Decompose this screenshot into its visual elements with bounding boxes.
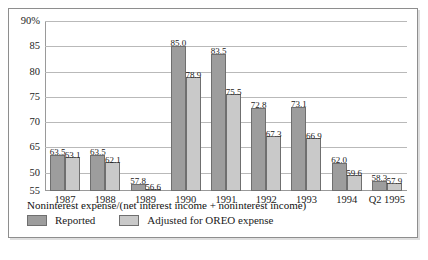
bar-value-label: 56.6 [145, 183, 161, 192]
chart-caption: Noninterest expense/(net interest income… [27, 199, 306, 212]
legend-label-adjusted: Adjusted for OREO expense [147, 215, 273, 226]
bar-value-label: 57.8 [130, 177, 146, 186]
bar-adjusted: 57.9 [387, 183, 402, 191]
bar-value-label: 78.9 [185, 71, 201, 80]
bar-value-label: 62.1 [105, 156, 121, 165]
bar-adjusted: 56.6 [146, 189, 161, 191]
bar-reported: 63.5 [50, 155, 65, 191]
y-tick-label: 90% [21, 16, 40, 27]
bar-group: 63.563.11987 [50, 21, 80, 191]
bar-value-label: 63.1 [65, 151, 81, 160]
bar-group: 57.856.61989 [131, 21, 161, 191]
bar-group: 85.078.91990 [171, 21, 201, 191]
bar-adjusted: 62.1 [105, 162, 120, 191]
bar-group: 72.867.31992 [251, 21, 281, 191]
legend-swatch-adjusted [119, 215, 139, 226]
bar-group: 83.575.51991 [211, 21, 241, 191]
bar-value-label: 63.5 [90, 148, 106, 157]
y-tick-label: 85 [30, 41, 41, 52]
bar-reported: 62.0 [332, 163, 347, 191]
bar-value-label: 66.9 [306, 132, 322, 141]
y-tick-label: 70 [30, 117, 41, 128]
bar-reported: 57.8 [131, 184, 146, 191]
bar-value-label: 72.8 [251, 101, 267, 110]
bar-value-label: 59.6 [346, 169, 362, 178]
bar-reported: 73.1 [291, 107, 306, 191]
legend-swatch-reported [27, 215, 47, 226]
bar-group: 63.562.11988 [90, 21, 120, 191]
bar-adjusted: 78.9 [186, 77, 201, 191]
y-tick-label: 50 [30, 168, 41, 179]
bar-value-label: 75.5 [226, 88, 242, 97]
bar-adjusted: 75.5 [226, 94, 241, 191]
bar-group: 58.357.9Q2 1995 [372, 21, 402, 191]
bar-group: 62.059.61994 [332, 21, 362, 191]
bar-value-label: 57.9 [387, 177, 403, 186]
legend-entry-adjusted: Adjusted for OREO expense [119, 215, 273, 226]
y-tick-label: 65 [30, 142, 41, 153]
chart-figure: 90%85807570655055 63.563.1198763.562.119… [8, 8, 418, 238]
bar-value-label: 85.0 [170, 39, 186, 48]
legend-entry-reported: Reported [27, 215, 95, 226]
bar-adjusted: 66.9 [306, 138, 321, 191]
x-tick-label: Q2 1995 [369, 195, 405, 206]
y-tick-label: 80 [30, 66, 41, 77]
bar-reported: 85.0 [171, 46, 186, 191]
bar-value-label: 63.5 [50, 148, 66, 157]
x-tick-label: 1994 [336, 195, 357, 206]
bar-value-label: 62.0 [331, 156, 347, 165]
legend-label-reported: Reported [55, 215, 95, 226]
y-tick-label: 75 [30, 92, 41, 103]
chart-legend: Reported Adjusted for OREO expense [27, 215, 274, 226]
plot-area: 90%85807570655055 63.563.1198763.562.119… [45, 21, 407, 191]
bar-value-label: 58.3 [372, 174, 388, 183]
bar-value-label: 83.5 [211, 47, 227, 56]
bar-adjusted: 63.1 [65, 157, 80, 191]
bar-value-label: 73.1 [291, 100, 307, 109]
bar-adjusted: 59.6 [347, 175, 362, 191]
bar-adjusted: 67.3 [266, 136, 281, 191]
bar-value-label: 67.3 [266, 130, 282, 139]
bar-group: 73.166.91993 [291, 21, 321, 191]
y-tick-label: 55 [30, 186, 41, 197]
bar-reported: 58.3 [372, 181, 387, 191]
bar-reported: 72.8 [251, 108, 266, 191]
bar-reported: 63.5 [90, 155, 105, 191]
bar-reported: 83.5 [211, 54, 226, 191]
